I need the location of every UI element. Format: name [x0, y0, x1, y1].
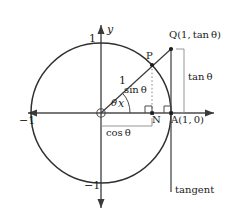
tan-brace — [176, 49, 184, 113]
point-label-A: A(1, 0) — [171, 115, 204, 125]
cos-label: cos θ — [106, 128, 131, 138]
point-label-Q: Q(1, tan θ) — [169, 30, 221, 40]
y-axis-arrow-down — [98, 199, 105, 208]
cos-brace — [101, 118, 152, 126]
y-axis-arrow-up — [98, 25, 105, 34]
tangent-line-label: tangent — [175, 185, 214, 195]
point-label-P: P — [146, 51, 153, 61]
tick-label-y-top: 1 — [89, 33, 96, 44]
point-marker-P — [150, 63, 154, 67]
x-axis-arrow-right — [205, 110, 214, 117]
angle-label-theta: θ — [111, 98, 117, 108]
unit-circle-figure: x y 1 −1 −1 P Q(1, tan θ) N A(1, 0) 1 θ … — [0, 0, 241, 220]
tan-label: tan θ — [188, 72, 212, 82]
tick-label-y-bottom: −1 — [84, 180, 100, 191]
point-marker-Q — [169, 47, 173, 51]
tick-label-x-left: −1 — [19, 115, 35, 126]
point-label-N: N — [152, 115, 161, 125]
axis-label-y: y — [107, 24, 113, 35]
axis-label-x: x — [118, 98, 124, 109]
sin-label: sin θ — [124, 85, 147, 95]
